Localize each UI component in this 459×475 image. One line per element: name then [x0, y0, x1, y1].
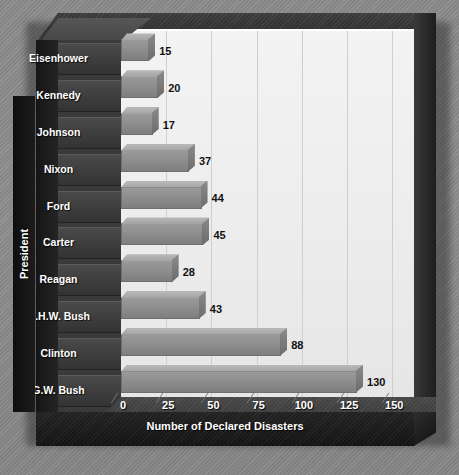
bar: 28	[121, 254, 179, 276]
bar-face	[121, 371, 357, 393]
bar-value-label: 44	[212, 188, 224, 209]
x-tick-label: 75	[253, 399, 265, 411]
x-tick-label: 100	[295, 399, 313, 411]
bar-value-label: 88	[291, 335, 303, 356]
bar-top-face	[121, 181, 208, 188]
x-axis-title: Number of Declared Disasters	[36, 420, 414, 432]
bar: 44	[121, 181, 208, 203]
chart-frame-right-wall	[414, 13, 436, 433]
x-tick-label: 25	[162, 399, 174, 411]
bar-top-face	[121, 144, 195, 151]
y-axis-title-text: President	[18, 229, 30, 279]
bar-value-label: 37	[199, 151, 211, 172]
bar-face	[121, 150, 189, 172]
bar-value-label: 130	[367, 372, 385, 393]
bar-top-face	[121, 328, 287, 335]
bar-face	[121, 113, 153, 135]
bar-top-face	[121, 291, 206, 298]
x-tick-label: 50	[207, 399, 219, 411]
bar: 43	[121, 291, 206, 313]
bar: 45	[121, 217, 209, 239]
bar-face	[121, 39, 149, 61]
x-tick-label: 125	[340, 399, 358, 411]
y-axis-title: President	[13, 96, 35, 412]
x-tick-label: 0	[120, 399, 126, 411]
bar-value-label: 43	[210, 298, 222, 319]
bar: 17	[121, 107, 159, 129]
bar-value-label: 28	[183, 261, 195, 282]
bar-top-face	[121, 365, 363, 372]
bar-value-label: 17	[163, 114, 175, 135]
bar-top-face	[121, 254, 179, 261]
x-tick-label: 150	[385, 399, 403, 411]
chart-canvas: EisenhowerKennedyJohnsonNixonFordCarterR…	[0, 0, 459, 475]
bar: 88	[121, 328, 287, 350]
bar-face	[121, 260, 173, 282]
bar: 130	[121, 365, 363, 387]
bar-face	[121, 76, 158, 98]
bar: 20	[121, 70, 164, 92]
bar: 15	[121, 33, 155, 55]
bar-value-label: 45	[213, 224, 225, 245]
bar: 37	[121, 144, 195, 166]
chart-title-clipped	[0, 0, 459, 9]
bar-value-label: 15	[159, 40, 171, 61]
bar-series: 152017374445284388130	[121, 29, 414, 397]
bar-value-label: 20	[168, 77, 180, 98]
bar-face	[121, 187, 202, 209]
category-label: Eisenhower	[0, 43, 121, 73]
bar-face	[121, 334, 281, 356]
bar-face	[121, 223, 203, 245]
bar-top-face	[121, 217, 209, 224]
bar-face	[121, 297, 200, 319]
category-label-panel: EisenhowerKennedyJohnsonNixonFordCarterR…	[58, 40, 121, 412]
